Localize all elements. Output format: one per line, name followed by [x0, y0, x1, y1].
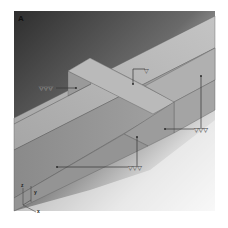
figure-panel: A ▽▽▽ ▽ ▽▽▽ ▽▽▽ z y x: [0, 0, 228, 228]
axis-x-label: x: [37, 208, 40, 214]
water-level-symbol: ▽▽▽: [39, 84, 53, 91]
panel-label: A: [18, 14, 24, 23]
water-level-symbol: ▽▽▽: [128, 164, 142, 171]
water-level-symbol: ▽▽▽: [194, 126, 208, 133]
water-level-symbol: ▽: [144, 67, 149, 74]
axis-y-label: y: [34, 189, 37, 195]
